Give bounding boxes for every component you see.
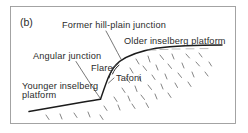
- leader-flare: [112, 64, 119, 69]
- tafoni-tick-group-lower: [104, 93, 171, 111]
- label-older-inselberg-platform: Older inselberg platform: [124, 36, 226, 46]
- label-former-hill-plain-junction: Former hill-plain junction: [62, 20, 166, 30]
- label-flare: Flare: [91, 63, 113, 73]
- label-tafoni: Tafoni: [116, 73, 141, 83]
- tafoni-tick-group-platform: [46, 112, 103, 120]
- figure-panel-b: (b): [0, 0, 248, 133]
- older-platform-profile: [120, 45, 223, 62]
- younger-platform-profile: [29, 99, 101, 111]
- tafoni-tick-group-upper: [130, 53, 212, 73]
- label-angular-junction: Angular junction: [33, 51, 101, 61]
- annotation-labels: Former hill-plain junction Older inselbe…: [22, 20, 226, 100]
- leader-tafoni: [109, 78, 115, 83]
- crest-shading: [148, 49, 208, 50]
- inselberg-profile-diagram: (b): [0, 0, 248, 133]
- label-younger-inselberg-platform-line2: platform: [22, 90, 57, 100]
- leader-former-hill-plain-junction: [106, 31, 122, 60]
- panel-letter: (b): [20, 16, 33, 28]
